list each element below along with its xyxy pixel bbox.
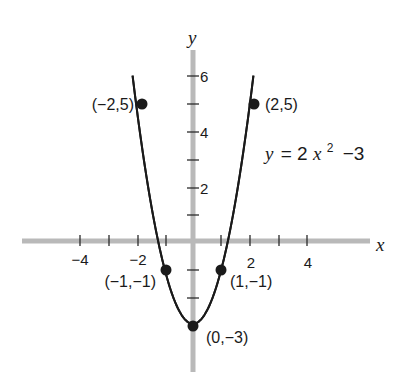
x-axis-label: x: [375, 234, 385, 255]
equation-label: y = 2 x 2 −3: [263, 135, 364, 164]
y-axis-label: y: [186, 27, 197, 48]
x-tick-label: −4: [71, 251, 88, 268]
point-label: (−2,5): [92, 96, 134, 113]
point-2-5: [249, 99, 260, 110]
eq-equals: = 2: [281, 143, 308, 164]
point-1-neg1: [216, 265, 227, 276]
y-tick-label: 4: [200, 124, 208, 141]
point-label: (0,−3): [206, 329, 248, 346]
eq-rest: −3: [343, 143, 365, 164]
point-neg1-neg1: [161, 265, 172, 276]
eq-x: x: [312, 143, 322, 164]
eq-y: y: [263, 143, 274, 164]
x-tick-label: −2: [129, 251, 146, 268]
point-label: (−1,−1): [104, 273, 156, 290]
y-tick-label: 2: [200, 180, 208, 197]
eq-exponent: 2: [327, 141, 334, 155]
point-neg2-5: [137, 99, 148, 110]
point-label: (1,−1): [230, 273, 272, 290]
y-tick-label: 6: [200, 68, 208, 85]
parabola-chart: −4 −2 2 4 6 4 2 y x (−2,5) (2,5) (−1,−1)…: [0, 0, 409, 388]
x-tick-label: 4: [304, 254, 312, 271]
point-0-neg3: [188, 321, 199, 332]
point-label: (2,5): [265, 96, 298, 113]
x-tick-label: 2: [247, 254, 255, 271]
